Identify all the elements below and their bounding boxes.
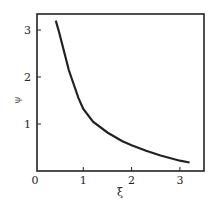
x-tick-label: 3: [176, 174, 183, 187]
y-tick-label: 3: [24, 24, 31, 37]
axis-ticks: [37, 30, 180, 171]
x-tick-label: 2: [128, 174, 135, 187]
data-curve: [56, 21, 190, 163]
y-axis-label: ψ: [11, 96, 22, 104]
x-tick-label: 1: [80, 174, 87, 187]
chart: 0123123 ξ ψ: [0, 0, 216, 211]
y-tick-label: 2: [24, 71, 31, 84]
x-tick-label: 0: [32, 174, 39, 187]
plot-frame: [37, 14, 204, 171]
y-tick-label: 1: [24, 118, 31, 131]
tick-labels: 0123123: [24, 24, 183, 187]
x-axis-label: ξ: [117, 186, 123, 199]
